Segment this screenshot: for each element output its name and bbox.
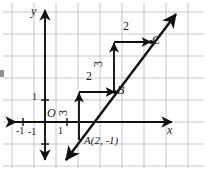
rise-label-b-to-c: 3 [92,61,104,67]
point-label-b: B [117,84,124,96]
figure-coordinate-graph: y x O 1 -1 1 -1 A(2, -1) B C 2 2 3 3 [0,0,207,171]
rise-label-a-to-b: 3 [57,110,69,116]
run-label-a-to-b: 2 [86,70,92,82]
origin-label: O [47,107,56,119]
tick-label-y-positive-one: 1 [32,92,37,102]
point-label-c: C [152,34,160,46]
run-label-b-to-c: 2 [123,20,129,32]
axis-label-x: x [167,124,172,136]
tick-label-y-negative-one: -1 [28,127,36,137]
axis-label-y: y [31,5,36,17]
tick-label-x-negative-one: -1 [16,126,24,136]
point-label-a: A(2, -1) [84,135,118,146]
page-edge-artifact [0,70,4,77]
tick-label-x-positive-one: 1 [58,126,63,136]
